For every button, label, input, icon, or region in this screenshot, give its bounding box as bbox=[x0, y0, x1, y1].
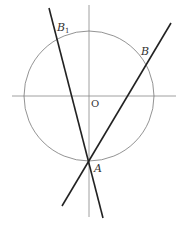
label-b1: B1 bbox=[56, 21, 70, 35]
label-o: O bbox=[91, 98, 99, 109]
line-a-b1 bbox=[49, 8, 103, 218]
label-a: A bbox=[93, 162, 102, 175]
geometry-diagram: B1 B O A bbox=[0, 0, 181, 230]
line-a-b bbox=[62, 23, 171, 206]
label-b: B bbox=[140, 45, 149, 58]
